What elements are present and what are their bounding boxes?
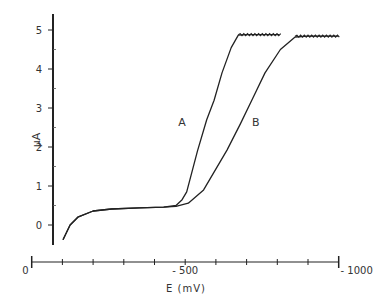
- y-tick-label: 1: [36, 181, 42, 192]
- x-axis: 0- 500- 1000: [22, 256, 373, 276]
- y-axis: 012345: [36, 14, 56, 245]
- x-tick-label: - 1000: [341, 265, 373, 276]
- x-tick-label: 0: [22, 265, 28, 276]
- curve-a: [63, 35, 279, 240]
- y-axis-label: μA: [30, 132, 43, 147]
- x-tick-label: - 500: [172, 265, 198, 276]
- plateau-ripple-a: [238, 34, 280, 36]
- curve-label-a: A: [178, 116, 186, 129]
- y-tick-label: 5: [36, 25, 42, 36]
- curve-labels: AB: [178, 116, 259, 129]
- y-tick-label: 3: [36, 103, 42, 114]
- curve-label-b: B: [252, 116, 260, 129]
- curve-b: [63, 36, 338, 240]
- x-axis-label: E (mV): [166, 283, 206, 294]
- data-series: [63, 34, 339, 240]
- y-tick-label: 4: [36, 64, 42, 75]
- polarogram-chart: 012345 0- 500- 1000 AB μA E (mV): [0, 0, 379, 302]
- y-tick-label: 0: [36, 220, 42, 231]
